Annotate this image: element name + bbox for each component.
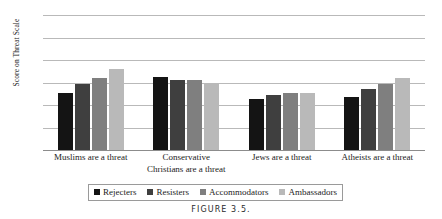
x-axis-label: Muslims are a threat [43, 152, 139, 164]
bar [204, 84, 219, 150]
plot-area: 024681012 [43, 15, 425, 150]
bar [58, 93, 73, 150]
legend-item[interactable]: Resisters [147, 188, 189, 197]
bar-groups [43, 15, 425, 150]
bar-group [234, 15, 330, 150]
bar [344, 97, 359, 150]
gridline-0 [43, 150, 425, 151]
legend-item[interactable]: Ambassadors [279, 188, 337, 197]
legend-swatch-icon [147, 189, 153, 195]
legend-label: Resisters [156, 188, 189, 197]
y-axis-title: Score on Threat Scale [12, 0, 21, 123]
x-axis-label: ConservativeChristians are a threat [139, 152, 235, 175]
bar [92, 78, 107, 150]
figure-caption: FIGURE 3.5. [0, 205, 442, 214]
bar [170, 80, 185, 150]
figure-3-5: Score on Threat Scale 024681012 Muslims … [0, 0, 442, 219]
bar [266, 95, 281, 150]
legend-item[interactable]: Rejecters [94, 188, 136, 197]
bar [283, 93, 298, 150]
bar [300, 93, 315, 150]
legend-swatch-icon [94, 189, 100, 195]
bar [75, 84, 90, 150]
chart-legend: RejectersResistersAccommodatorsAmbassado… [88, 184, 343, 201]
legend-label: Accommodators [209, 188, 268, 197]
legend-swatch-icon [200, 189, 206, 195]
bar [395, 78, 410, 150]
bar [109, 69, 124, 150]
bar-group [43, 15, 139, 150]
x-axis-label: Jews are a threat [234, 152, 330, 164]
bar-group [139, 15, 235, 150]
bar [378, 84, 393, 150]
legend-label: Rejecters [103, 188, 136, 197]
bar-group [330, 15, 426, 150]
legend-label: Ambassadors [288, 188, 337, 197]
bar [153, 77, 168, 150]
legend-swatch-icon [279, 189, 285, 195]
x-axis-label: Atheists are a threat [330, 152, 426, 164]
bar [187, 80, 202, 150]
bar [249, 99, 264, 150]
legend-item[interactable]: Accommodators [200, 188, 268, 197]
bar [361, 89, 376, 150]
x-axis-category-labels: Muslims are a threatConservativeChristia… [43, 152, 425, 178]
